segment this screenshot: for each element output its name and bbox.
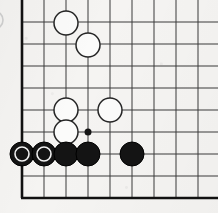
white-stone-1[interactable] xyxy=(54,11,78,35)
go-diagram xyxy=(0,0,218,213)
white-stone-5[interactable] xyxy=(54,120,78,144)
star-point-layer xyxy=(85,129,92,136)
black-stone-3[interactable] xyxy=(54,142,78,166)
white-stone-3[interactable] xyxy=(54,98,78,122)
cropped-stone-edge-fragment xyxy=(0,11,3,29)
black-stone-2[interactable] xyxy=(32,142,56,166)
grid-layer xyxy=(22,0,218,198)
white-stone-4[interactable] xyxy=(98,98,122,122)
black-stone-5[interactable] xyxy=(120,142,144,166)
board-edge-layer xyxy=(21,0,218,198)
star-point-3-4-hoshi xyxy=(85,129,92,136)
black-stone-1[interactable] xyxy=(10,142,34,166)
black-stone-4[interactable] xyxy=(76,142,100,166)
cropped-stone-edge-fragment xyxy=(0,11,3,29)
white-stone-2[interactable] xyxy=(76,33,100,57)
go-board[interactable] xyxy=(0,0,218,213)
black-stones-layer xyxy=(10,142,144,166)
